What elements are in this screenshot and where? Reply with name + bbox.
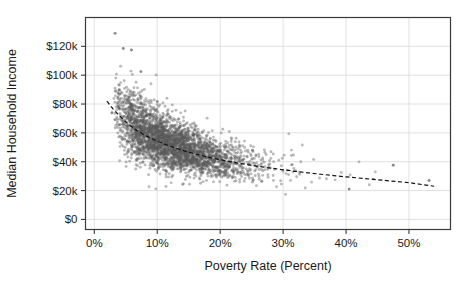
data-point <box>199 135 202 138</box>
data-point <box>235 145 238 148</box>
data-point <box>292 153 295 156</box>
data-point <box>171 110 174 113</box>
data-point <box>144 97 147 100</box>
data-point <box>199 182 202 185</box>
data-point <box>159 144 162 147</box>
data-point <box>168 162 171 165</box>
data-point <box>174 118 177 121</box>
data-point <box>160 117 163 120</box>
scatter-plot-figure: 0%10%20%30%40%50%$0$20k$40k$60k$80k$100k… <box>0 0 465 291</box>
data-point <box>125 86 128 89</box>
data-point <box>171 103 174 106</box>
x-tick-label: 30% <box>272 237 295 249</box>
data-point <box>124 108 127 111</box>
data-point <box>236 171 239 174</box>
data-point-outlier <box>114 32 117 35</box>
data-point <box>204 168 207 171</box>
data-point <box>176 121 179 124</box>
data-point <box>229 148 232 151</box>
data-point <box>191 133 194 136</box>
data-point <box>183 159 186 162</box>
data-point <box>230 157 233 160</box>
chart-canvas: 0%10%20%30%40%50%$0$20k$40k$60k$80k$100k… <box>0 0 465 291</box>
data-point <box>191 160 194 163</box>
data-point <box>144 163 147 166</box>
data-point <box>174 136 177 139</box>
data-point <box>183 128 186 131</box>
data-point <box>232 175 235 178</box>
data-point <box>284 172 287 175</box>
data-point <box>120 143 123 146</box>
data-point <box>187 158 190 161</box>
data-point <box>208 162 211 165</box>
data-point <box>171 139 174 142</box>
data-point <box>121 101 124 104</box>
data-point <box>185 175 188 178</box>
data-point <box>130 93 133 96</box>
data-point <box>205 179 208 182</box>
data-point <box>168 172 171 175</box>
data-point <box>135 110 138 113</box>
data-point <box>150 154 153 157</box>
data-point <box>137 134 140 137</box>
data-point <box>131 138 134 141</box>
data-point <box>220 132 223 135</box>
data-point <box>140 140 143 143</box>
data-point <box>133 143 136 146</box>
data-point <box>220 162 223 165</box>
data-point <box>144 104 147 107</box>
data-point <box>170 181 173 184</box>
x-tick-label: 10% <box>146 237 169 249</box>
data-point <box>238 181 241 184</box>
data-point <box>131 73 134 76</box>
data-point <box>142 161 145 164</box>
data-point <box>114 94 117 97</box>
data-point <box>224 157 227 160</box>
data-point <box>126 106 129 109</box>
data-point <box>130 122 133 125</box>
data-point <box>155 74 158 77</box>
data-point <box>134 167 137 170</box>
data-point <box>137 92 140 95</box>
data-point <box>143 109 146 112</box>
data-point <box>243 180 246 183</box>
data-point <box>163 159 166 162</box>
data-point <box>211 129 214 132</box>
data-point <box>143 88 146 91</box>
data-point <box>214 139 217 142</box>
data-point <box>117 136 120 139</box>
data-point <box>123 149 126 152</box>
data-point <box>218 151 221 154</box>
data-point <box>161 130 164 133</box>
data-point <box>318 177 321 180</box>
data-point <box>185 122 188 125</box>
data-point <box>188 176 191 179</box>
data-point <box>153 112 156 115</box>
data-point <box>152 164 155 167</box>
data-point <box>182 116 185 119</box>
data-point <box>197 128 200 131</box>
data-point <box>232 166 235 169</box>
data-point <box>174 150 177 153</box>
data-point <box>212 136 215 139</box>
data-point <box>215 173 218 176</box>
data-point <box>130 115 133 118</box>
data-point <box>230 143 233 146</box>
data-point <box>135 140 138 143</box>
x-tick-label: 40% <box>335 237 358 249</box>
data-point <box>215 155 218 158</box>
data-point <box>209 141 212 144</box>
data-point <box>243 155 246 158</box>
data-point <box>148 167 151 170</box>
data-point <box>157 146 160 149</box>
data-point <box>180 153 183 156</box>
data-point <box>152 107 155 110</box>
data-point <box>204 161 207 164</box>
data-point <box>171 174 174 177</box>
data-point <box>220 156 223 159</box>
data-point <box>165 176 168 179</box>
data-point <box>154 168 157 171</box>
data-point <box>289 179 292 182</box>
data-point <box>210 146 213 149</box>
data-point <box>124 94 127 97</box>
